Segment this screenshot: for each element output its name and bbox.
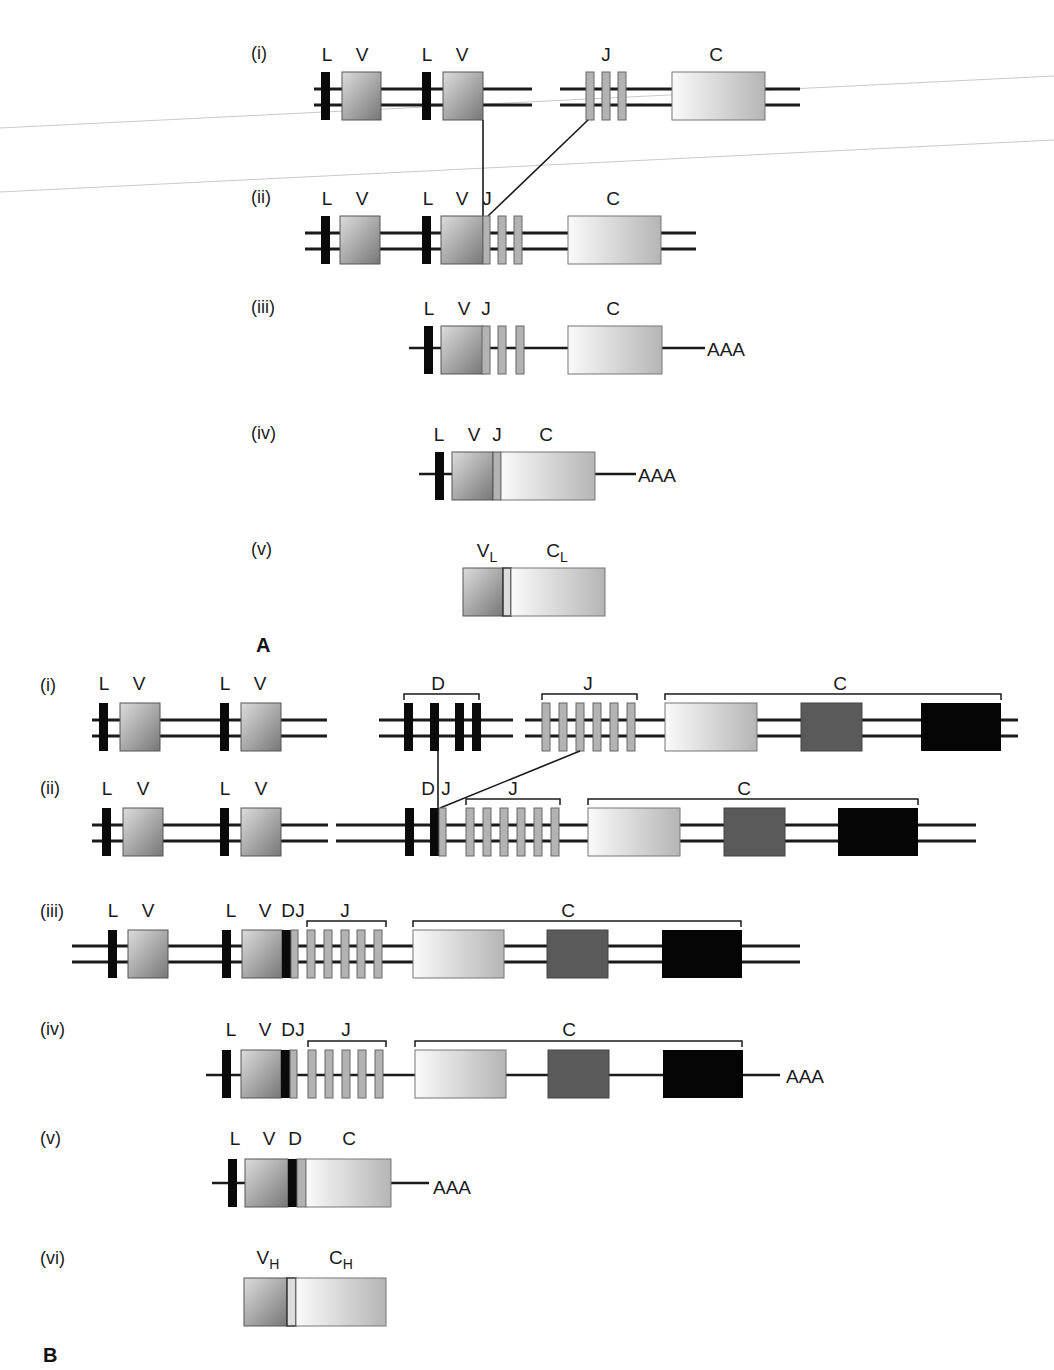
- j-bracket: [466, 799, 560, 805]
- j-bracket: [308, 1041, 386, 1047]
- c-segment-2: [724, 808, 785, 856]
- c-segment-2: [548, 1050, 609, 1098]
- j-segment-joined: [290, 1050, 297, 1098]
- v-segment: [452, 452, 493, 500]
- segment-label: VH: [257, 1247, 280, 1272]
- panel-a-row-i: [314, 72, 800, 120]
- segment-label: C: [833, 673, 847, 694]
- c-segment-2: [547, 930, 608, 978]
- row-label-iii: (iii): [40, 901, 64, 921]
- segment-label: V: [456, 44, 469, 65]
- d-segment: [455, 703, 464, 751]
- panel-b-row-iii: [72, 921, 800, 978]
- segment-label: D: [431, 673, 445, 694]
- row-label-ii: (ii): [40, 778, 60, 798]
- j-segment-joined: [439, 808, 446, 856]
- panel-a-row-iv: [419, 452, 636, 500]
- j-region: [503, 568, 511, 616]
- leader-exon: [422, 216, 431, 264]
- j-segment: [627, 703, 635, 751]
- v-segment: [242, 930, 282, 978]
- d-segment: [405, 808, 414, 856]
- segment-label: J: [508, 778, 518, 799]
- segment-label: V: [255, 778, 268, 799]
- segment-label: J: [295, 1019, 305, 1040]
- segment-label: J: [441, 778, 451, 799]
- row-label-vi: (vi): [40, 1248, 65, 1268]
- j-segment-joined: [297, 1159, 306, 1207]
- j-segment: [325, 1050, 333, 1098]
- segment-label: CL: [546, 540, 568, 565]
- leader-exon: [99, 703, 108, 751]
- leader-exon: [222, 930, 231, 978]
- segment-label: D: [281, 1019, 295, 1040]
- j-segment: [483, 808, 491, 856]
- poly-a-tail: AAA: [638, 465, 676, 486]
- segment-label: J: [492, 424, 502, 445]
- d-bracket: [404, 694, 479, 700]
- immunoglobulin-gene-rearrangement-diagram: (i)LVLVJC(ii)LVLVJC(iii)LVJCAAA(iv)LVJCA…: [0, 0, 1054, 1370]
- segment-label: C: [342, 1128, 356, 1149]
- c-segment: [568, 326, 662, 374]
- panel-a-row-ii: [305, 216, 696, 264]
- segment-label: L: [322, 188, 333, 209]
- segment-label: V: [259, 900, 272, 921]
- j-segment: [324, 930, 332, 978]
- leader-exon: [102, 808, 111, 856]
- j-segment-joined: [493, 452, 501, 500]
- j-segment: [610, 703, 618, 751]
- c-bracket: [415, 1041, 742, 1047]
- segment-label: J: [295, 900, 305, 921]
- panel-a-row-v: [463, 568, 605, 616]
- j-segment-joined: [482, 326, 490, 374]
- d-segment: [404, 703, 413, 751]
- segment-label: L: [220, 778, 231, 799]
- segment-label: L: [102, 778, 113, 799]
- j-segment: [618, 72, 626, 120]
- panel-b-row-v: [212, 1159, 429, 1207]
- j-segment: [516, 326, 524, 374]
- panel-a-row-iii: [409, 326, 705, 374]
- leader-exon: [220, 703, 229, 751]
- segment-label: V: [133, 673, 146, 694]
- c-segment-1: [665, 703, 757, 751]
- segment-label: V: [259, 1019, 272, 1040]
- segment-label: L: [108, 900, 119, 921]
- leader-exon: [108, 930, 117, 978]
- segment-label: C: [562, 1019, 576, 1040]
- row-label-i: (i): [251, 43, 267, 63]
- j-segment-joined: [291, 930, 298, 978]
- c-bracket: [413, 921, 741, 927]
- segment-label: J: [341, 1019, 351, 1040]
- segment-label: L: [226, 900, 237, 921]
- segment-label: D: [421, 778, 435, 799]
- c-segment-3: [662, 930, 742, 978]
- row-label-v: (v): [251, 539, 272, 559]
- leader-exon: [222, 1050, 231, 1098]
- c-segment-3: [921, 703, 1001, 751]
- j-segment: [500, 808, 508, 856]
- j-segment: [374, 930, 382, 978]
- c-segment-3: [663, 1050, 743, 1098]
- v-segment: [340, 216, 380, 264]
- segment-label: J: [481, 298, 491, 319]
- segment-label: C: [606, 298, 620, 319]
- segment-label: V: [356, 188, 369, 209]
- v-segment: [128, 930, 168, 978]
- row-label-iv: (iv): [40, 1019, 65, 1039]
- c-segment-1: [588, 808, 680, 856]
- scan-artifact-lines: [0, 76, 1054, 192]
- v-segment: [441, 326, 483, 374]
- v-segment: [241, 808, 281, 856]
- row-label-ii: (ii): [251, 187, 271, 207]
- c-bracket: [588, 799, 918, 805]
- panel-b-label: B: [43, 1344, 57, 1366]
- segment-label: CH: [329, 1247, 353, 1272]
- c-segment-3: [838, 808, 918, 856]
- segment-label: C: [539, 424, 553, 445]
- panel-b-row-ii: [92, 799, 976, 856]
- leader-exon: [321, 216, 330, 264]
- row-label-iii: (iii): [251, 297, 275, 317]
- variable-domain: [463, 568, 503, 616]
- j-segment: [551, 808, 559, 856]
